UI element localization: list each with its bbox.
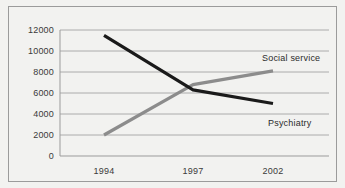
chart-figure: 12000 10000 8000 6000 4000 2000 0 1994 1… bbox=[0, 0, 345, 188]
chart-svg bbox=[0, 0, 345, 188]
series-line-social-service bbox=[104, 71, 273, 135]
plot-area: 12000 10000 8000 6000 4000 2000 0 1994 1… bbox=[0, 0, 345, 188]
gridlines-y bbox=[60, 30, 329, 135]
